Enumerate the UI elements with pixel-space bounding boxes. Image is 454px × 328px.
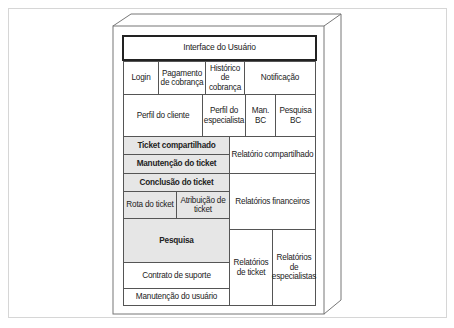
survey-cell: Pesquisa — [123, 218, 230, 263]
ticket-assignment-cell: Atribuição de ticket — [176, 191, 230, 219]
ticket-completion-cell: Conclusão do ticket — [123, 173, 230, 192]
user-interface-title: Interface do Usuário — [122, 35, 317, 61]
specialist-reports-cell: Relatórios de especialistas — [272, 229, 316, 306]
user-maintenance-cell: Manutenção do usuário — [123, 288, 230, 306]
financial-reports-cell: Relatórios financeiros — [229, 173, 316, 230]
specialist-profile-cell: Perfil do especialista — [202, 94, 246, 137]
notification-cell: Notificação — [244, 61, 316, 95]
support-contract-cell: Contrato de suporte — [123, 262, 230, 289]
billing-payment-cell: Pagamento de cobrança — [158, 61, 206, 95]
ticket-maintenance-cell: Manutenção do ticket — [123, 154, 230, 174]
billing-history-cell: Histórico de cobrança — [205, 61, 245, 95]
shared-ticket-cell: Ticket compartilhado — [123, 136, 230, 155]
ticket-routing-cell: Rota do ticket — [123, 191, 177, 219]
login-cell: Login — [123, 61, 159, 95]
shared-report-cell: Relatório compartilhado — [229, 136, 316, 174]
kb-search-cell: Pesquisa BC — [275, 94, 316, 137]
client-profile-cell: Perfil do cliente — [123, 94, 203, 137]
kb-maintenance-cell: Man. BC — [245, 94, 276, 137]
ticket-reports-cell: Relatórios de ticket — [229, 229, 273, 306]
